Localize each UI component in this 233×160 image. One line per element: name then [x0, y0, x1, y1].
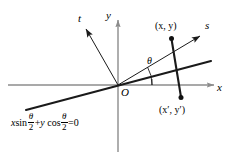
t-axis: [86, 29, 118, 85]
reflected-point-label: (x′, y′): [159, 105, 185, 115]
equation-term2-var: y: [40, 117, 44, 128]
original-point-label: (x, y): [155, 21, 177, 31]
equation-term2-denominator: 2: [61, 123, 68, 132]
line-equation: xsinθ2+y cosθ2=0: [11, 112, 79, 133]
s-axis-label: s: [205, 20, 209, 31]
equation-term1-fraction: θ2: [28, 112, 35, 133]
equation-term1-denominator: 2: [28, 123, 35, 132]
reflected-point-dot: [179, 95, 184, 100]
angle-arc: [148, 67, 153, 85]
origin-label: O: [121, 87, 129, 98]
equation-term2-fn: cos: [47, 117, 60, 128]
s-axis: [118, 36, 200, 85]
t-axis-label: t: [78, 13, 81, 24]
y-axis-label: y: [106, 10, 111, 21]
equation-term2-fraction: θ2: [61, 112, 68, 133]
theta-angle-label: θ: [147, 56, 152, 66]
reflection-diagram: x y s t O θ (x, y) (x′, y′) xsinθ2+y cos…: [0, 0, 233, 160]
diagram-canvas: [0, 0, 233, 160]
equation-term2-numerator: θ: [61, 112, 68, 121]
equation-term1-numerator: θ: [28, 112, 35, 121]
x-axis-label: x: [217, 82, 222, 93]
original-point-dot: [169, 36, 174, 41]
equation-term1-fn: sin: [15, 117, 27, 128]
equation-equals-zero: =0: [68, 117, 79, 128]
